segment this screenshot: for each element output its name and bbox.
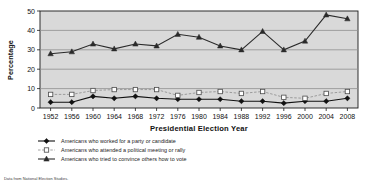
data-point-marker [303, 96, 307, 100]
x-axis-title: Presidential Election Year [150, 124, 248, 133]
x-tick-label: 1992 [255, 113, 271, 120]
data-point-marker [260, 89, 264, 93]
x-tick-label: 1984 [212, 113, 228, 120]
data-point-marker [345, 89, 349, 93]
chart-legend: Americans who worked for a party or cand… [38, 138, 187, 162]
x-tick-label: 1968 [128, 113, 144, 120]
legend-item: Americans who attended a political meeti… [38, 147, 185, 153]
data-point-marker [91, 88, 95, 92]
chart-figure: 01020304050 1952195619601964196819721976… [0, 0, 373, 184]
y-tick-label: 20 [27, 66, 35, 73]
data-point-marker [176, 93, 180, 97]
data-point-marker [112, 87, 116, 91]
x-tick-label: 2008 [340, 113, 356, 120]
data-point-marker [197, 90, 201, 94]
x-tick-label: 2000 [297, 113, 313, 120]
y-tick-label: 0 [31, 105, 35, 112]
data-point-marker [133, 87, 137, 91]
x-tick-label: 2004 [318, 113, 334, 120]
legend-label: Americans who attended a political meeti… [61, 147, 185, 153]
data-point-marker [282, 95, 286, 99]
x-tick-label: 1956 [64, 113, 80, 120]
source-note: Data from National Election Studies. [4, 176, 68, 181]
y-tick-label: 10 [27, 85, 35, 92]
x-tick-label: 1972 [149, 113, 165, 120]
data-point-marker [239, 91, 243, 95]
x-tick-label: 1976 [170, 113, 186, 120]
data-point-marker [324, 91, 328, 95]
y-tick-label: 40 [27, 27, 35, 34]
x-tick-label: 1960 [85, 113, 101, 120]
x-tick-label: 1980 [191, 113, 207, 120]
x-tick-label: 1952 [43, 113, 59, 120]
x-tick-label: 1988 [234, 113, 250, 120]
y-tick-label: 30 [27, 46, 35, 53]
legend-item: Americans who tried to convince others h… [38, 156, 187, 162]
y-tick-label: 50 [27, 8, 35, 15]
line-chart: 01020304050 1952195619601964196819721976… [0, 0, 373, 184]
legend-label: Americans who worked for a party or cand… [61, 138, 176, 144]
data-point-marker [48, 92, 52, 96]
x-tick-label: 1996 [276, 113, 292, 120]
x-tick-label: 1964 [106, 113, 122, 120]
data-point-marker [44, 148, 48, 152]
legend-label: Americans who tried to convince others h… [61, 156, 187, 162]
data-point-marker [154, 87, 158, 91]
data-point-marker [218, 89, 222, 93]
y-axis-title: Percentage [6, 40, 15, 80]
data-point-marker [70, 92, 74, 96]
